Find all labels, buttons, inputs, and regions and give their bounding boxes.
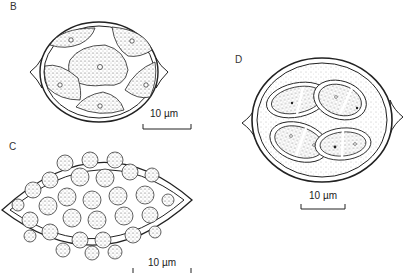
panel-label-b: B xyxy=(10,1,17,12)
scale-label-c: 10 µm xyxy=(148,257,176,268)
panel-c-scale-bar xyxy=(133,268,191,273)
scale-label-d: 10 µm xyxy=(309,190,337,201)
panel-d-scale-bar xyxy=(301,204,345,209)
panel-label-c: C xyxy=(9,141,16,152)
figure-canvas xyxy=(0,0,407,273)
panel-c-cell xyxy=(2,152,192,260)
panel-b-scale-bar xyxy=(143,124,191,129)
panel-label-d: D xyxy=(235,54,242,65)
panel-b-cell xyxy=(30,22,168,122)
panel-d-cell xyxy=(242,58,403,182)
scale-label-b: 10 µm xyxy=(150,108,178,119)
